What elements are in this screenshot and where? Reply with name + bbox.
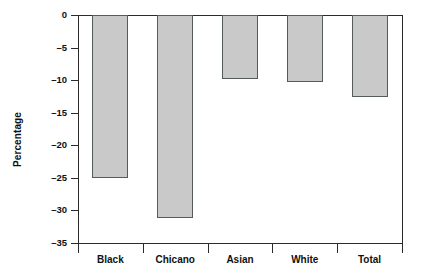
y-axis-title-text: Percentage	[12, 112, 23, 167]
x-axis-line	[78, 243, 403, 244]
x-axis-label-black: Black	[78, 254, 143, 265]
x-axis-label-white: White	[272, 254, 337, 265]
y-axis-line	[78, 15, 79, 243]
bar-chart: Percentage 0–5–10–15–20–25–30–35 BlackCh…	[0, 0, 424, 278]
category-separator	[337, 243, 338, 253]
y-axis-tick-label: –35	[27, 238, 67, 248]
y-axis-tick	[71, 145, 78, 146]
y-axis-tick-label: –20	[27, 140, 67, 150]
category-separator	[402, 243, 403, 253]
y-axis-tick	[71, 178, 78, 179]
bar-asian	[222, 15, 258, 79]
bar-black	[92, 15, 128, 178]
category-separator	[208, 243, 209, 253]
y-axis-title: Percentage	[8, 0, 26, 278]
bar-total	[352, 15, 388, 97]
x-axis-label-total: Total	[337, 254, 402, 265]
x-axis-label-chicano: Chicano	[143, 254, 208, 265]
plot-right-border	[402, 15, 403, 243]
bar-white	[287, 15, 323, 82]
y-axis-tick	[71, 243, 78, 244]
y-axis-tick-label: –25	[27, 173, 67, 183]
y-axis-tick-label: –30	[27, 205, 67, 215]
y-axis-tick-label: –10	[27, 75, 67, 85]
y-axis-tick-label: –5	[27, 43, 67, 53]
y-axis-tick	[71, 210, 78, 211]
y-axis-tick	[71, 80, 78, 81]
y-axis-tick	[71, 48, 78, 49]
category-separator	[143, 243, 144, 253]
y-axis-tick	[71, 113, 78, 114]
category-separator	[78, 243, 79, 253]
y-axis-tick-label: 0	[27, 10, 67, 20]
bar-chicano	[157, 15, 193, 218]
x-axis-label-asian: Asian	[208, 254, 273, 265]
y-axis-tick-label: –15	[27, 108, 67, 118]
category-separator	[272, 243, 273, 253]
y-axis-tick	[71, 15, 78, 16]
